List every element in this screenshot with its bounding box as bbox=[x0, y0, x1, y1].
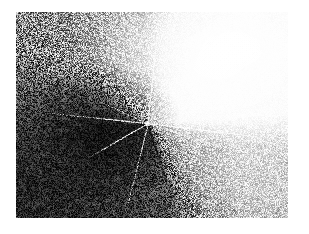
vignette-layer bbox=[16, 12, 288, 218]
micrograph-plate bbox=[16, 12, 288, 218]
page-canvas bbox=[0, 0, 309, 234]
